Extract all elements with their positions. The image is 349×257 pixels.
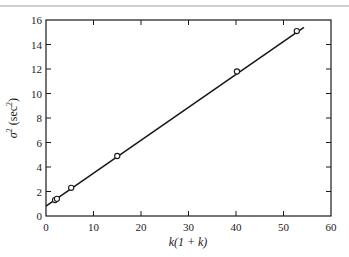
y-tick-label: 2 xyxy=(37,186,43,198)
y-tick-label: 4 xyxy=(37,161,43,173)
data-point-marker xyxy=(234,69,239,74)
fit-line-segment xyxy=(46,27,304,206)
x-axis-label: k(1 + k) xyxy=(169,235,208,249)
x-tick-label: 40 xyxy=(231,221,243,233)
data-point-marker xyxy=(115,153,120,158)
ticks xyxy=(46,20,331,216)
x-tick-label: 0 xyxy=(43,221,49,233)
data-point-marker xyxy=(294,28,299,33)
y-axis-label: σ2 (sec2) xyxy=(5,98,20,138)
x-tick-label: 10 xyxy=(88,221,100,233)
fit-line xyxy=(46,27,304,206)
y-tick-label: 16 xyxy=(31,14,43,26)
plot-frame xyxy=(46,20,331,216)
y-tick-label: 14 xyxy=(31,39,43,51)
y-tick-label: 12 xyxy=(31,63,42,75)
x-tick-label: 60 xyxy=(326,221,338,233)
data-point-marker xyxy=(69,185,74,190)
tick-labels: 01020304050600246810121416 xyxy=(31,14,337,233)
y-tick-label: 10 xyxy=(31,88,43,100)
x-tick-label: 30 xyxy=(183,221,195,233)
chart: 01020304050600246810121416 k(1 + k) σ2 (… xyxy=(0,0,349,257)
x-tick-label: 20 xyxy=(136,221,148,233)
x-tick-label: 50 xyxy=(278,221,290,233)
y-tick-label: 8 xyxy=(37,112,43,124)
y-tick-label: 6 xyxy=(37,137,43,149)
y-tick-label: 0 xyxy=(37,210,43,222)
data-point-marker xyxy=(54,196,59,201)
